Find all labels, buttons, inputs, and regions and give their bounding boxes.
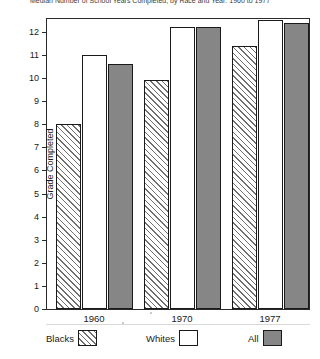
y-tick-mark [42, 101, 46, 102]
y-tick-label: 8 [34, 120, 39, 129]
y-tick-label: 5 [34, 189, 39, 198]
scan-speck [122, 322, 124, 324]
y-tick-mark [42, 55, 46, 56]
bar-blacks-1970 [144, 80, 169, 309]
chart-title-text: Median Number of School Years Completed,… [30, 0, 320, 4]
legend: BlacksWhitesAll [46, 330, 310, 352]
y-tick-label: 3 [34, 235, 39, 244]
bar-whites-1977 [258, 20, 283, 309]
y-tick-mark [42, 78, 46, 79]
y-tick-label: 6 [34, 166, 39, 175]
bar-all-1977 [284, 23, 309, 309]
y-tick-label: 9 [34, 97, 39, 106]
y-tick-label: 10 [29, 74, 39, 83]
scan-speck [150, 312, 152, 314]
bar-blacks-1960 [56, 124, 81, 309]
legend-item-blacks[interactable]: Blacks [46, 330, 97, 346]
bar-whites-1970 [170, 27, 195, 309]
y-tick-mark [42, 286, 46, 287]
x-tick-label: 1977 [232, 314, 309, 324]
y-tick-mark [42, 217, 46, 218]
legend-divider [46, 324, 310, 325]
y-tick-mark [42, 309, 46, 310]
y-tick-mark [42, 194, 46, 195]
y-tick-label: 0 [34, 305, 39, 314]
y-tick-label: 1 [34, 281, 39, 290]
legend-item-all[interactable]: All [248, 330, 282, 346]
y-tick-mark [42, 263, 46, 264]
legend-swatch-blacks [78, 330, 97, 346]
legend-label: Blacks [46, 333, 74, 344]
legend-label: All [248, 333, 259, 344]
y-tick-label: 7 [34, 143, 39, 152]
y-tick-mark [42, 240, 46, 241]
bar-blacks-1977 [232, 46, 257, 309]
legend-item-whites[interactable]: Whites [146, 330, 198, 346]
plot-top-border [46, 18, 310, 19]
bar-all-1970 [196, 27, 221, 309]
y-tick-label: 11 [30, 50, 39, 59]
y-tick-label: 2 [34, 258, 39, 267]
bar-whites-1960 [82, 55, 107, 309]
y-tick-mark [42, 32, 46, 33]
legend-swatch-whites [179, 330, 198, 346]
y-axis-label: Grade Completed [45, 128, 55, 199]
legend-swatch-all [263, 330, 282, 346]
figure: Median Number of School Years Completed,… [0, 0, 320, 359]
plot-right-border [309, 18, 310, 310]
legend-label: Whites [146, 333, 175, 344]
x-tick-label: 1970 [144, 314, 221, 324]
x-tick-label: 1960 [56, 314, 133, 324]
y-tick-label: 12 [29, 27, 39, 36]
y-tick-mark [42, 170, 46, 171]
x-axis-line [46, 309, 310, 310]
y-tick-label: 4 [34, 212, 39, 221]
plot-area: Grade Completed 0123456789101112 1960197… [46, 18, 310, 310]
chart-title-cropped: Median Number of School Years Completed,… [30, 0, 320, 6]
y-tick-mark [42, 124, 46, 125]
bar-all-1960 [108, 64, 133, 309]
y-tick-mark [42, 147, 46, 148]
